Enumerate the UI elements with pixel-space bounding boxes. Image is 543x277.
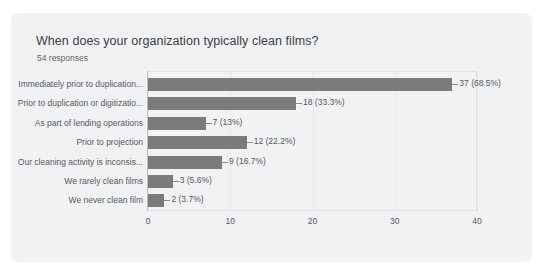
value-connector bbox=[452, 84, 458, 85]
x-axis-tick-label: 0 bbox=[146, 216, 151, 226]
bar[interactable] bbox=[148, 175, 173, 188]
category-label: We rarely clean films bbox=[0, 175, 143, 188]
bar[interactable] bbox=[148, 97, 296, 110]
bar-row: Prior to duplication or digitizatio...18… bbox=[0, 94, 543, 114]
bar[interactable] bbox=[148, 136, 247, 149]
value-connector bbox=[296, 103, 302, 104]
category-label: Prior to duplication or digitizatio... bbox=[0, 97, 143, 110]
bar-row: Immediately prior to duplication...37 (6… bbox=[0, 75, 543, 95]
screenshot-root: When does your organization typically cl… bbox=[0, 0, 543, 277]
bar-row: As part of lending operations7 (13%) bbox=[0, 114, 543, 134]
x-axis-tick-label: 10 bbox=[226, 216, 235, 226]
value-connector bbox=[222, 162, 228, 163]
x-axis-tick-label: 20 bbox=[308, 216, 317, 226]
bar-row: We rarely clean films3 (5.6%) bbox=[0, 172, 543, 192]
page-title: When does your organization typically cl… bbox=[36, 34, 319, 48]
response-count: 54 responses bbox=[37, 53, 88, 63]
category-label: Prior to projection bbox=[0, 136, 143, 149]
bar-value-label: 2 (3.7%) bbox=[171, 193, 203, 206]
category-label: As part of lending operations bbox=[0, 117, 143, 130]
bar-value-label: 7 (13%) bbox=[213, 116, 243, 129]
value-connector bbox=[173, 181, 179, 182]
category-label: Immediately prior to duplication... bbox=[0, 78, 143, 91]
bar-row: Our cleaning activity is inconsis...9 (1… bbox=[0, 153, 543, 173]
x-axis-tick-label: 40 bbox=[472, 216, 481, 226]
bar-value-label: 3 (5.6%) bbox=[180, 174, 212, 187]
value-connector bbox=[164, 200, 170, 201]
bar-value-label: 12 (22.2%) bbox=[254, 135, 296, 148]
bar-value-label: 9 (16.7%) bbox=[229, 155, 266, 168]
x-axis-tick-label: 30 bbox=[390, 216, 399, 226]
value-connector bbox=[247, 142, 253, 143]
bar-row: Prior to projection12 (22.2%) bbox=[0, 133, 543, 153]
bar[interactable] bbox=[148, 78, 452, 91]
category-label: Our cleaning activity is inconsis... bbox=[0, 156, 143, 169]
bar-value-label: 18 (33.3%) bbox=[303, 96, 345, 109]
bar[interactable] bbox=[148, 117, 206, 130]
category-label: We never clean film bbox=[0, 194, 143, 207]
bar-row: We never clean film2 (3.7%) bbox=[0, 191, 543, 211]
bar-value-label: 37 (68.5%) bbox=[459, 77, 501, 90]
bar[interactable] bbox=[148, 156, 222, 169]
bar[interactable] bbox=[148, 194, 164, 207]
value-connector bbox=[206, 123, 212, 124]
